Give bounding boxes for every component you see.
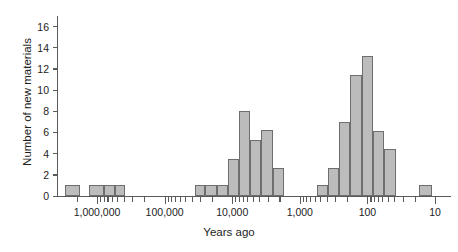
x-tick-minor [382, 197, 383, 202]
histogram-bar [250, 140, 261, 196]
histogram-bar [373, 131, 384, 196]
x-tick-minor [180, 197, 181, 202]
x-tick-major [300, 197, 301, 204]
x-tick-minor [212, 197, 213, 202]
x-tick-minor [279, 197, 280, 202]
x-tick-minor [235, 197, 236, 202]
x-tick-minor [100, 197, 101, 202]
x-tick-major [97, 197, 98, 204]
histogram-bar [261, 130, 273, 196]
x-tick-minor [104, 197, 105, 202]
x-axis-title: Years ago [0, 226, 458, 238]
x-tick-minor [171, 197, 172, 202]
x-tick-minor [335, 197, 336, 202]
x-tick-label: 100,000 [146, 206, 184, 218]
x-tick-label: 10,000 [216, 206, 248, 218]
histogram-bar [239, 111, 251, 196]
x-tick-minor [320, 197, 321, 202]
x-tick-minor [347, 197, 348, 202]
x-tick-minor [394, 197, 395, 202]
histogram-bar [350, 75, 362, 196]
histogram-bar [217, 185, 228, 196]
histogram-bar [115, 185, 126, 196]
x-tick-minor [303, 197, 304, 202]
x-tick-minor [124, 197, 125, 202]
histogram-bar [317, 185, 328, 196]
x-tick-minor [117, 197, 118, 202]
x-tick-minor [403, 197, 404, 202]
x-tick-minor [144, 197, 145, 202]
x-tick-minor [247, 197, 248, 202]
x-tick-minor [370, 197, 371, 202]
x-tick-minor [185, 197, 186, 202]
bars-container [57, 16, 449, 196]
histogram-bar [89, 185, 103, 196]
x-tick-minor [192, 197, 193, 202]
x-tick-major [435, 197, 436, 204]
histogram-bar [273, 168, 284, 196]
x-tick-minor [310, 197, 311, 202]
x-tick-minor [268, 197, 269, 202]
x-tick-minor [168, 197, 169, 202]
x-tick-minor [374, 197, 375, 202]
histogram-bar [195, 185, 206, 196]
x-tick-minor [259, 197, 260, 202]
histogram-bar [339, 122, 350, 196]
x-tick-label: 10 [429, 206, 441, 218]
histogram-bar [104, 185, 115, 196]
x-tick-label: 1,000,000 [74, 206, 121, 218]
x-tick-minor [243, 197, 244, 202]
x-tick-label: 100 [359, 206, 377, 218]
histogram-bar [228, 159, 239, 196]
histogram-bar [419, 185, 432, 196]
x-tick-minor [77, 197, 78, 202]
x-tick-minor [253, 197, 254, 202]
x-tick-minor [132, 197, 133, 202]
y-axis-title: Number of new materials [21, 12, 33, 192]
histogram-chart: 0246810121416 1,000,000100,00010,0001,00… [0, 0, 458, 252]
histogram-bar [65, 185, 80, 196]
x-tick-major [367, 197, 368, 204]
x-axis-line [57, 196, 451, 197]
x-tick-minor [378, 197, 379, 202]
x-tick-major [165, 197, 166, 204]
histogram-bar [362, 56, 373, 196]
x-tick-minor [315, 197, 316, 202]
x-tick-minor [107, 197, 108, 202]
x-tick-minor [415, 197, 416, 202]
x-tick-minor [175, 197, 176, 202]
x-tick-minor [306, 197, 307, 202]
x-tick-label: 1,000 [287, 206, 313, 218]
x-tick-minor [327, 197, 328, 202]
x-tick-minor [239, 197, 240, 202]
x-tick-major [232, 197, 233, 204]
x-tick-minor [388, 197, 389, 202]
histogram-bar [205, 185, 216, 196]
histogram-bar [384, 149, 395, 196]
x-tick-minor [200, 197, 201, 202]
x-tick-minor [112, 197, 113, 202]
histogram-bar [328, 168, 339, 196]
